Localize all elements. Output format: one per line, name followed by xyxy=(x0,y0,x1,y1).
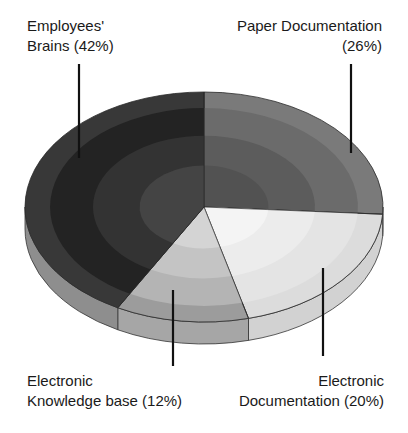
label-line: Brains (42%) xyxy=(27,36,114,56)
label-line: (26%) xyxy=(200,36,382,56)
label-paper-documentation: Paper Documentation (26%) xyxy=(200,16,382,56)
label-line: Documentation (20%) xyxy=(200,391,384,411)
label-line: Electronic xyxy=(200,371,384,391)
label-line: Paper Documentation xyxy=(200,16,382,36)
label-line: Employees' xyxy=(27,16,114,36)
label-electronic-documentation: Electronic Documentation (20%) xyxy=(200,371,384,411)
pie-chart xyxy=(0,0,408,433)
label-employees-brains: Employees' Brains (42%) xyxy=(27,16,114,56)
label-line: Knowledge base (12%) xyxy=(27,391,182,411)
label-line: Electronic xyxy=(27,371,182,391)
label-electronic-knowledge-base: Electronic Knowledge base (12%) xyxy=(27,371,182,411)
